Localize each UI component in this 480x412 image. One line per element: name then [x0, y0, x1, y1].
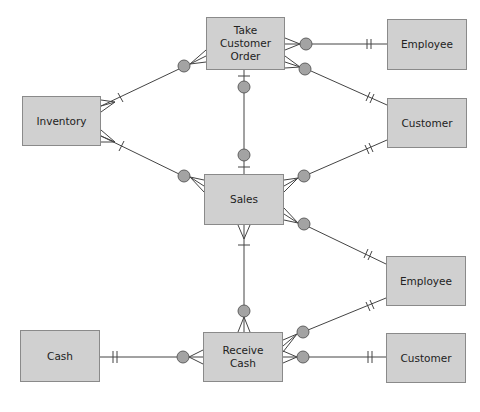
optional-circle-icon: [297, 326, 309, 338]
rel-tco-customer: [285, 56, 387, 105]
entity-customer-top: Customer: [387, 98, 467, 148]
optional-circle-icon: [297, 351, 309, 363]
rel-sales-employee: [284, 208, 386, 264]
entity-receive-cash: Receive Cash: [203, 332, 283, 382]
rel-receive-cash-cash: [100, 350, 203, 364]
optional-circle-icon: [238, 81, 250, 93]
entity-label: Sales: [230, 193, 258, 206]
rel-sales-receive-cash: [238, 225, 250, 332]
optional-circle-icon: [300, 38, 312, 50]
entity-label: Employee: [401, 38, 453, 51]
rel-tco-sales: [238, 70, 250, 174]
er-diagram: Take Customer Order Employee Customer In…: [0, 0, 480, 412]
optional-circle-icon: [177, 351, 189, 363]
optional-circle-icon: [238, 149, 250, 161]
rel-tco-inventory: [101, 50, 206, 112]
optional-circle-icon: [178, 60, 190, 72]
entity-label: Receive Cash: [222, 344, 263, 370]
optional-circle-icon: [238, 305, 250, 317]
entity-label: Employee: [400, 275, 452, 288]
rel-sales-inventory: [101, 130, 204, 192]
entity-label: Customer: [401, 117, 452, 130]
entity-cash: Cash: [20, 330, 100, 382]
entity-inventory: Inventory: [22, 96, 101, 146]
rel-sales-customer: [284, 140, 387, 192]
optional-circle-icon: [298, 170, 310, 182]
entity-label: Inventory: [36, 115, 86, 128]
entity-employee-top: Employee: [387, 19, 467, 70]
optional-circle-icon: [178, 170, 190, 182]
entity-label: Take Customer Order: [207, 24, 284, 63]
optional-circle-icon: [299, 63, 311, 75]
entity-label: Cash: [47, 350, 73, 363]
optional-circle-icon: [298, 218, 310, 230]
rel-receive-cash-customer: [283, 351, 386, 363]
entity-customer-bottom: Customer: [386, 333, 466, 383]
entity-sales: Sales: [204, 174, 284, 225]
entity-label: Customer: [400, 352, 451, 365]
entity-take-customer-order: Take Customer Order: [206, 17, 285, 70]
rel-tco-employee: [285, 38, 387, 50]
entity-employee-bottom: Employee: [386, 256, 466, 306]
rel-receive-cash-employee: [283, 298, 386, 352]
